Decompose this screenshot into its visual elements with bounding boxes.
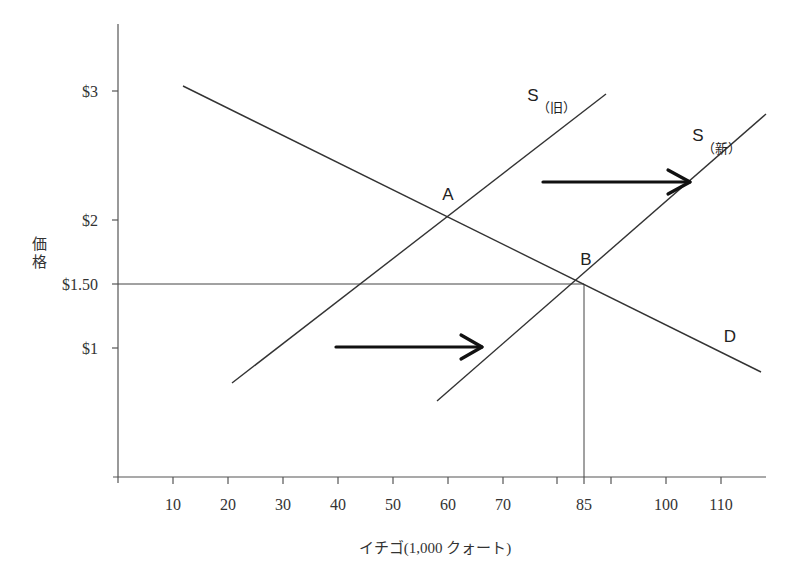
x-tick-label-40: 40	[330, 496, 346, 513]
curves	[183, 86, 766, 401]
reference-lines	[118, 284, 584, 477]
axes	[113, 24, 766, 483]
shift-arrows	[336, 170, 690, 359]
demand-label: D	[724, 327, 736, 346]
lower-shift-arrow	[336, 335, 482, 359]
y-tick-label-1: $1	[82, 340, 98, 357]
x-tick-labels: 10 20 30 40 50 60 70 85 100 110	[165, 496, 733, 513]
y-axis-title-char-1: 価	[32, 236, 47, 252]
demand-curve	[183, 86, 761, 372]
x-tick-label-10: 10	[165, 496, 181, 513]
point-b-label: B	[580, 250, 591, 269]
x-tick-label-60: 60	[440, 496, 456, 513]
x-tick-label-100: 100	[654, 496, 678, 513]
upper-shift-arrow	[543, 170, 690, 194]
x-axis-title: イチゴ(1,000 クォート)	[359, 539, 512, 557]
y-tick-labels: $3 $2 $1.50 $1	[62, 83, 98, 357]
point-a-label: A	[442, 185, 454, 204]
y-axis-title-char-2: 格	[32, 254, 47, 270]
x-tick-label-30: 30	[275, 496, 291, 513]
x-tick-label-20: 20	[220, 496, 236, 513]
x-tick-label-70: 70	[495, 496, 511, 513]
x-tick-label-85: 85	[576, 496, 592, 513]
y-tick-label-2: $2	[82, 212, 98, 229]
supply-new-sublabel: （新）	[702, 141, 741, 156]
y-tick-label-3: $3	[82, 83, 98, 100]
supply-new-curve	[437, 114, 766, 401]
curve-labels: A B D S （旧） S （新）	[442, 86, 740, 346]
x-ticks	[173, 477, 721, 484]
y-tick-label-1-50: $1.50	[62, 276, 98, 293]
x-tick-label-110: 110	[709, 496, 732, 513]
y-ticks	[112, 91, 118, 348]
y-axis-title: 価 格	[32, 236, 47, 270]
x-tick-label-50: 50	[385, 496, 401, 513]
supply-old-sublabel: （旧）	[537, 100, 576, 115]
supply-demand-chart: $3 $2 $1.50 $1 価 格 10 20 30 40 50 60 70 …	[0, 0, 797, 583]
